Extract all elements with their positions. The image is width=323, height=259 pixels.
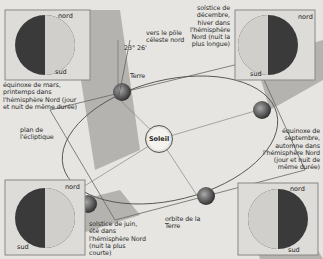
label-ecliptique: plan de l'écliptique [20, 127, 60, 142]
panel-decembre-sud: sud [250, 70, 262, 78]
seasons-diagram: Soleil nord sud nord sud nord sud nord s… [0, 0, 323, 259]
panel-mars-sud: sud [55, 68, 67, 76]
sun: Soleil [145, 125, 173, 153]
panel-mars-nord: nord [58, 12, 73, 20]
earth-mars-icon [113, 83, 131, 101]
panel-juin-sud: sud [17, 243, 29, 251]
panel-septembre-nord: nord [290, 185, 305, 193]
label-pole: vers le pôle céleste nord [146, 30, 196, 45]
label-angle: 23° 26' [124, 45, 147, 52]
panel-decembre-nord: nord [298, 13, 313, 21]
label-terre: Terre [130, 73, 145, 80]
caption-juin: solstice de juin, été dans l'hémisphère … [89, 221, 149, 257]
earth-septembre-icon [253, 101, 271, 119]
panel-juin-nord: nord [65, 183, 80, 191]
panel-septembre-sud: sud [288, 246, 300, 254]
earth-decembre-icon [197, 187, 215, 205]
caption-mars: équinoxe de mars, printemps dans l'hémis… [3, 82, 83, 111]
label-orbite: orbite de la Terre [165, 216, 205, 231]
caption-septembre: équinoxe de septembre, automne dans l'hé… [262, 128, 320, 172]
